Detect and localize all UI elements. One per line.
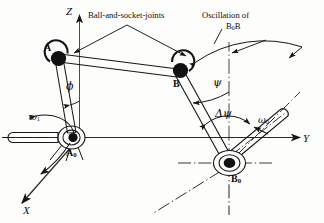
ball-joint-leader-lines: [74, 25, 186, 56]
omega1-base: ω: [29, 111, 37, 122]
oscillation-label-line1: Oscillation of: [202, 11, 249, 20]
point-b-label: B: [173, 79, 180, 90]
bearing-b0: [214, 151, 246, 176]
b0-sub: 0: [238, 177, 241, 184]
z-axis-label: Z: [66, 6, 72, 18]
angle-delta-psi-label: Δψ: [215, 108, 232, 120]
crank-a0a: [56, 61, 77, 133]
point-a0-label: A0: [66, 148, 77, 159]
y-axis-label: Y: [303, 133, 309, 145]
mechanism-linkage-drawing: [0, 0, 324, 223]
oscillation-b-tail: B: [235, 21, 241, 31]
coupler-link-ab: [63, 55, 178, 78]
b0-base: B: [231, 173, 238, 184]
angle-phi-arc: [70, 101, 80, 105]
oscillation-arc: [196, 41, 302, 62]
a0-sub: 0: [73, 151, 76, 158]
omega1-sub: 1: [37, 115, 40, 122]
omega0-sub: 0: [266, 118, 269, 125]
figure-canvas: Z Y X Ball-and-socket-joints Oscillation…: [0, 0, 324, 223]
oscillation-label-line2: B0B: [226, 22, 240, 31]
point-b0-label: B0: [231, 174, 241, 185]
omega1-label: ω1: [29, 112, 40, 123]
omega0-label: ω0: [258, 115, 269, 126]
point-a-label: A: [44, 43, 51, 54]
angle-psi-label: ψ: [213, 77, 222, 89]
omega0-base: ω: [258, 114, 266, 125]
angle-phi-label: ϕ: [66, 81, 74, 93]
x-axis-label: X: [23, 205, 30, 217]
ball-and-socket-joints-label: Ball-and-socket-joints: [88, 11, 164, 20]
